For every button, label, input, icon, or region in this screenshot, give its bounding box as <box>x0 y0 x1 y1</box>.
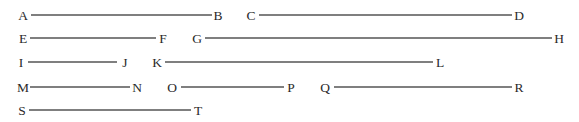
point-label-q: Q <box>320 80 330 95</box>
point-label-j: J <box>122 55 127 70</box>
segment-qr: QR <box>320 80 523 95</box>
point-label-n: N <box>132 80 142 95</box>
point-label-a: A <box>18 8 28 23</box>
diagram-svg: ABCDEFGHIJKLMNOPQRST <box>0 0 579 122</box>
point-label-l: L <box>436 55 444 70</box>
point-label-o: O <box>167 80 177 95</box>
point-label-d: D <box>514 8 524 23</box>
point-label-c: C <box>246 8 255 23</box>
segment-ij: IJ <box>19 55 128 70</box>
segment-cd: CD <box>246 8 524 23</box>
line-segments-diagram: ABCDEFGHIJKLMNOPQRST <box>0 0 579 122</box>
point-label-b: B <box>213 8 222 23</box>
segment-gh: GH <box>192 31 564 46</box>
segment-ef: EF <box>19 31 167 46</box>
point-label-f: F <box>159 31 167 46</box>
segment-kl: KL <box>152 55 444 70</box>
point-label-m: M <box>17 80 29 95</box>
segment-ab: AB <box>18 8 222 23</box>
segment-st: ST <box>18 103 203 118</box>
point-label-s: S <box>18 103 26 118</box>
segment-op: OP <box>167 80 295 95</box>
point-label-k: K <box>152 55 162 70</box>
point-label-p: P <box>287 80 295 95</box>
point-label-e: E <box>19 31 27 46</box>
segment-mn: MN <box>17 80 142 95</box>
point-label-g: G <box>192 31 202 46</box>
point-label-h: H <box>554 31 564 46</box>
point-label-r: R <box>514 80 523 95</box>
point-label-i: I <box>19 55 24 70</box>
point-label-t: T <box>194 103 203 118</box>
